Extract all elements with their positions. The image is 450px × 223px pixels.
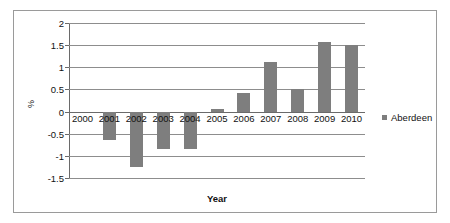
y-axis-tick-label: 1.5 (51, 40, 64, 51)
bar (318, 42, 331, 112)
bar (237, 93, 250, 112)
bar (264, 62, 277, 112)
bar (345, 45, 358, 111)
bar (211, 109, 224, 112)
gridline (69, 178, 365, 179)
bar (103, 112, 116, 141)
y-axis-tick-label: -1 (56, 150, 64, 161)
chart-frame: % 21.510.50-0.5-1-1.5 200020012002200320… (13, 10, 437, 213)
bar (157, 112, 170, 150)
bar (130, 112, 143, 167)
y-axis-tick-label: -0.5 (48, 128, 64, 139)
legend-label: Aberdeen (391, 112, 432, 123)
bar (184, 112, 197, 150)
chart-legend: Aberdeen (382, 112, 432, 123)
y-axis-tick-label: 0.5 (51, 84, 64, 95)
bars-layer (69, 23, 365, 178)
plot-area: 21.510.50-0.5-1-1.5 20002001200220032004… (69, 23, 365, 178)
y-axis-tick-label: 0 (59, 106, 64, 117)
x-axis-title: Year (69, 193, 365, 204)
y-axis-tick-mark (65, 178, 69, 179)
y-axis-tick-label: 2 (59, 18, 64, 29)
legend-swatch-icon (382, 115, 387, 120)
y-axis-title: % (26, 84, 36, 124)
y-axis-tick-label: -1.5 (48, 173, 64, 184)
y-axis-tick-label: 1 (59, 62, 64, 73)
bar (291, 89, 304, 112)
